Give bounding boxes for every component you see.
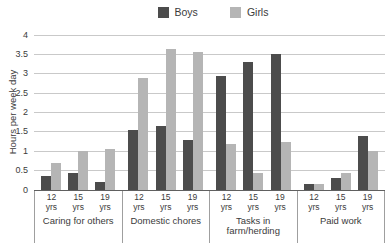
bar-pair [68, 151, 88, 190]
legend-boys-label: Boys [175, 6, 198, 18]
category-label: Paid work [298, 216, 385, 227]
age-ticks-row: 12 yrs15 yrs19 yrs [123, 191, 210, 213]
legend-item-boys: Boys [158, 6, 198, 18]
x-axis-labels: 12 yrs15 yrs19 yrsCaring for others12 yr… [34, 191, 385, 243]
bar-pair [41, 163, 61, 190]
y-tick-label: 0 [0, 185, 28, 196]
y-tick-label: 1 [0, 146, 28, 157]
age-tick-label: 15 yrs [242, 193, 264, 213]
bar-pair [95, 149, 115, 190]
x-axis-group: 12 yrs15 yrs19 yrsDomestic chores [122, 191, 210, 243]
girls-bar [281, 142, 291, 190]
girls-bar [368, 151, 378, 190]
y-tick-label: 3 [0, 68, 28, 79]
bar-group [297, 35, 385, 190]
bar-pair [243, 62, 263, 190]
y-tick-label: 0.5 [0, 165, 28, 176]
bar-pair [271, 54, 291, 190]
legend: Boys Girls [36, 4, 390, 20]
x-axis-group: 12 yrs15 yrs19 yrsCaring for others [34, 191, 122, 243]
boys-bar [358, 136, 368, 190]
boys-bar [156, 126, 166, 190]
bar-pair [331, 173, 351, 190]
age-tick-label: 19 yrs [94, 193, 116, 213]
boys-swatch-icon [158, 7, 169, 18]
girls-swatch-icon [230, 7, 241, 18]
bar-group [210, 35, 298, 190]
girls-bar [78, 151, 88, 190]
age-tick-label: 12 yrs [128, 193, 150, 213]
age-tick-label: 19 yrs [357, 193, 379, 213]
bar-group [34, 35, 122, 190]
bar-pair [183, 52, 203, 190]
girls-bar [193, 52, 203, 190]
boys-bar [41, 176, 51, 190]
y-tick-label: 4 [0, 30, 28, 41]
boys-bar [331, 178, 341, 190]
category-label: Domestic chores [123, 216, 210, 227]
y-axis-ticks: 43.532.521.510.50 [0, 0, 30, 245]
age-ticks-row: 12 yrs15 yrs19 yrs [35, 191, 122, 213]
girls-bar [253, 173, 263, 190]
girls-bar [226, 144, 236, 191]
bar-chart: Boys Girls Hours per week day 43.532.521… [0, 0, 390, 245]
boys-bar [68, 173, 78, 190]
girls-bar [138, 78, 148, 190]
y-tick-label: 1.5 [0, 126, 28, 137]
age-tick-label: 12 yrs [303, 193, 325, 213]
age-ticks-row: 12 yrs15 yrs19 yrs [210, 191, 297, 213]
bar-pair [128, 78, 148, 190]
bar-pair [156, 49, 176, 190]
y-tick-label: 2 [0, 107, 28, 118]
bar-group [122, 35, 210, 190]
age-tick-label: 19 yrs [269, 193, 291, 213]
girls-bar [51, 163, 61, 190]
legend-girls-label: Girls [247, 6, 269, 18]
boys-bar [128, 130, 138, 190]
x-axis-group: 12 yrs15 yrs19 yrsTasks in farm/herding [209, 191, 297, 243]
age-tick-label: 12 yrs [215, 193, 237, 213]
legend-item-girls: Girls [230, 6, 269, 18]
plot-area [34, 35, 385, 190]
girls-bar [341, 173, 351, 190]
bar-pair [358, 136, 378, 190]
age-ticks-row: 12 yrs15 yrs19 yrs [298, 191, 385, 213]
boys-bar [271, 54, 281, 190]
boys-bar [216, 76, 226, 190]
category-label: Caring for others [35, 216, 122, 227]
boys-bar [243, 62, 253, 190]
girls-bar [105, 149, 115, 190]
age-tick-label: 19 yrs [182, 193, 204, 213]
bar-pair [216, 76, 236, 190]
age-tick-label: 12 yrs [40, 193, 62, 213]
age-tick-label: 15 yrs [67, 193, 89, 213]
category-label: Tasks in farm/herding [210, 216, 297, 238]
y-tick-label: 2.5 [0, 88, 28, 99]
age-tick-label: 15 yrs [330, 193, 352, 213]
bar-groups [34, 35, 385, 190]
y-tick-label: 3.5 [0, 49, 28, 60]
girls-bar [166, 49, 176, 190]
x-axis-group: 12 yrs15 yrs19 yrsPaid work [297, 191, 386, 243]
boys-bar [183, 140, 193, 190]
age-tick-label: 15 yrs [155, 193, 177, 213]
